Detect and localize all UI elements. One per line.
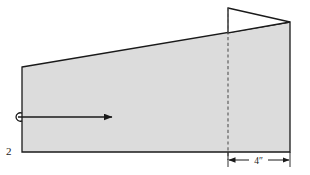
dimension-label: 4″ <box>254 156 263 166</box>
wedge-body-shape <box>22 22 290 152</box>
left-identifier-label: 2 <box>6 145 12 157</box>
diagram-canvas: 4″ 2 <box>0 0 310 175</box>
wedge-diagram-figure: 4″ 2 <box>0 0 310 175</box>
